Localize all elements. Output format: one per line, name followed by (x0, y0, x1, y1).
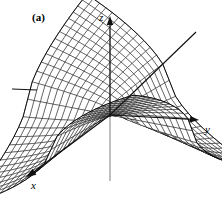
x-axis-label: x (30, 179, 36, 191)
surface-plot-svg: x y z (0, 0, 222, 207)
y-axis-label: y (204, 123, 210, 135)
z-axis-label: z (98, 11, 104, 23)
figure-panel: (a) x y z (0, 0, 222, 207)
